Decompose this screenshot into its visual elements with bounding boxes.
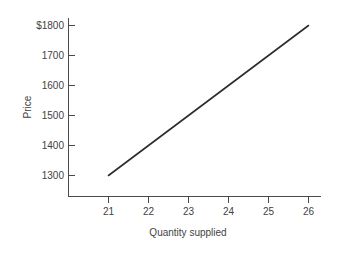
y-tick-label-1700: 1700 [42, 50, 65, 61]
y-tick-label-1800: $1800 [36, 20, 64, 31]
x-tick-label-23: 23 [183, 206, 195, 217]
x-tick-label-24: 24 [223, 206, 235, 217]
y-tick-label-1300: 1300 [42, 170, 65, 181]
chart-background [0, 0, 340, 253]
x-tick-label-26: 26 [303, 206, 315, 217]
y-tick-label-1500: 1500 [42, 110, 65, 121]
y-axis-title: Price [22, 95, 33, 118]
supply-curve-chart: $1800 1700 1600 1500 1400 1300 21 22 23 … [0, 0, 340, 253]
chart-canvas: $1800 1700 1600 1500 1400 1300 21 22 23 … [0, 0, 340, 253]
x-tick-label-21: 21 [103, 206, 115, 217]
x-tick-label-22: 22 [143, 206, 155, 217]
x-axis-title: Quantity supplied [149, 227, 226, 238]
y-tick-label-1600: 1600 [42, 80, 65, 91]
y-tick-label-1400: 1400 [42, 140, 65, 151]
x-tick-label-25: 25 [263, 206, 275, 217]
